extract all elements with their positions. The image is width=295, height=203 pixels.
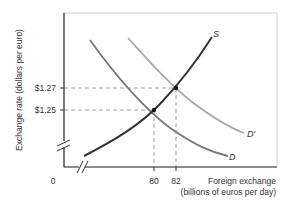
equilibrium-point-1 bbox=[152, 108, 156, 112]
y-tick-127: $1.27 bbox=[35, 83, 57, 93]
supply-curve-s bbox=[84, 37, 212, 156]
equilibrium-point-2 bbox=[174, 86, 178, 90]
plot-frame bbox=[64, 13, 277, 167]
guide-lines bbox=[64, 88, 176, 167]
origin-label: 0 bbox=[51, 176, 56, 186]
exchange-rate-chart: S D D′ $1.27 $1.25 0 80 82 Foreign excha… bbox=[0, 0, 295, 203]
axes bbox=[64, 13, 277, 167]
x-tick-80: 80 bbox=[149, 176, 159, 186]
x-axis-label-line1: Foreign exchange bbox=[208, 176, 276, 186]
y-tick-125: $1.25 bbox=[35, 105, 57, 115]
label-d-prime: D′ bbox=[247, 129, 255, 139]
label-s: S bbox=[213, 29, 219, 39]
x-axis-label-line2: (billions of euros per day) bbox=[181, 187, 277, 197]
y-axis-label: Exchange rate (dollars per euro) bbox=[14, 29, 24, 151]
label-d: D bbox=[229, 152, 236, 162]
demand-curve-d bbox=[90, 40, 228, 156]
x-tick-82: 82 bbox=[171, 176, 181, 186]
